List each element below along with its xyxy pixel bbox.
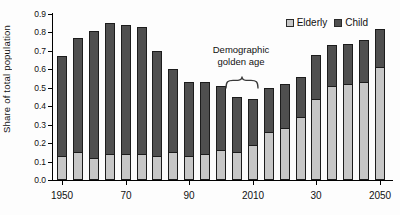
y-tick-label-0.2: 0.2 bbox=[26, 139, 46, 148]
legend-swatch-child bbox=[334, 19, 342, 27]
bar-1970-child bbox=[121, 25, 131, 155]
x-tick-30 bbox=[316, 181, 317, 185]
bar-1995-child bbox=[200, 82, 210, 155]
x-tick-2050 bbox=[380, 181, 381, 185]
x-tick-label-30: 30 bbox=[299, 190, 333, 201]
bar-1990-elderly bbox=[184, 156, 194, 180]
bar-2010-child bbox=[248, 99, 258, 146]
bar-1995-elderly bbox=[200, 154, 210, 180]
x-axis-line bbox=[52, 180, 393, 181]
bar-2020-child bbox=[280, 84, 290, 129]
y-tick-label-0.3: 0.3 bbox=[26, 121, 46, 130]
x-tick-label-2010: 2010 bbox=[236, 190, 270, 201]
bar-2035-child bbox=[327, 45, 337, 87]
bar-1970-elderly bbox=[121, 154, 131, 180]
y-tick-label-0.9: 0.9 bbox=[26, 10, 46, 19]
x-tick-70 bbox=[126, 181, 127, 185]
y-tick-label-0.1: 0.1 bbox=[26, 158, 46, 167]
bar-2030-elderly bbox=[311, 99, 321, 180]
x-tick-90 bbox=[189, 181, 190, 185]
population-share-chart: Share of total population 0.00.10.20.30.… bbox=[0, 0, 400, 215]
bar-1950-child bbox=[57, 56, 67, 157]
bar-2005-child bbox=[232, 97, 242, 153]
bar-2000-elderly bbox=[216, 150, 226, 180]
legend-label-elderly: Elderly bbox=[297, 17, 328, 28]
legend-item-elderly: Elderly bbox=[286, 17, 328, 28]
bar-1960-elderly bbox=[89, 158, 99, 180]
bar-2005-elderly bbox=[232, 152, 242, 180]
brace-icon bbox=[225, 76, 259, 90]
annotation-line2: golden age bbox=[183, 56, 299, 68]
annotation-demographic-golden-age: Demographic golden age bbox=[183, 44, 299, 67]
bar-1955-child bbox=[73, 38, 83, 153]
x-tick-label-90: 90 bbox=[172, 190, 206, 201]
x-tick-2010 bbox=[253, 181, 254, 185]
y-axis-title: Share of total population bbox=[1, 18, 14, 140]
bar-2050-elderly bbox=[375, 67, 385, 180]
y-tick-0.6 bbox=[48, 69, 52, 70]
y-tick-label-0.7: 0.7 bbox=[26, 47, 46, 56]
bar-1975-elderly bbox=[137, 154, 147, 180]
bar-2000-child bbox=[216, 86, 226, 151]
x-tick-label-1950: 1950 bbox=[45, 190, 79, 201]
bar-2045-child bbox=[359, 40, 369, 83]
y-tick-0.1 bbox=[48, 162, 52, 163]
y-tick-0.2 bbox=[48, 143, 52, 144]
bar-2025-child bbox=[296, 77, 306, 118]
bar-1950-elderly bbox=[57, 156, 67, 180]
y-tick-0.9 bbox=[48, 14, 52, 15]
bar-1985-elderly bbox=[168, 152, 178, 180]
bar-1955-elderly bbox=[73, 152, 83, 180]
y-tick-label-0.4: 0.4 bbox=[26, 102, 46, 111]
y-tick-label-0.0: 0.0 bbox=[26, 176, 46, 185]
legend: ElderlyChild bbox=[286, 17, 368, 28]
bar-2040-child bbox=[343, 44, 353, 85]
y-tick-0.0 bbox=[48, 180, 52, 181]
y-tick-0.7 bbox=[48, 51, 52, 52]
bar-2020-elderly bbox=[280, 128, 290, 180]
bar-1990-child bbox=[184, 82, 194, 157]
bar-1975-child bbox=[137, 27, 147, 155]
y-tick-0.4 bbox=[48, 106, 52, 107]
bar-2015-child bbox=[264, 88, 274, 133]
bar-1965-child bbox=[105, 23, 115, 155]
x-tick-label-2050: 2050 bbox=[363, 190, 397, 201]
x-tick-1950 bbox=[62, 181, 63, 185]
bar-2040-elderly bbox=[343, 84, 353, 180]
bar-1985-child bbox=[168, 69, 178, 153]
bar-2025-elderly bbox=[296, 117, 306, 180]
bar-1980-elderly bbox=[152, 156, 162, 180]
y-tick-label-0.8: 0.8 bbox=[26, 28, 46, 37]
x-tick-label-70: 70 bbox=[109, 190, 143, 201]
bar-1960-child bbox=[89, 31, 99, 159]
bar-2035-elderly bbox=[327, 86, 337, 180]
annotation-line1: Demographic bbox=[183, 44, 299, 56]
bar-2050-child bbox=[375, 29, 385, 68]
bar-2010-elderly bbox=[248, 145, 258, 180]
y-tick-label-0.6: 0.6 bbox=[26, 65, 46, 74]
bar-2045-elderly bbox=[359, 82, 369, 180]
legend-label-child: Child bbox=[345, 17, 368, 28]
bar-1980-child bbox=[152, 51, 162, 157]
bar-1965-elderly bbox=[105, 154, 115, 180]
bar-2015-elderly bbox=[264, 132, 274, 180]
y-tick-0.8 bbox=[48, 32, 52, 33]
y-axis-line bbox=[52, 13, 53, 181]
legend-item-child: Child bbox=[334, 17, 368, 28]
bar-2030-child bbox=[311, 55, 321, 100]
legend-swatch-elderly bbox=[286, 19, 294, 27]
y-tick-0.3 bbox=[48, 125, 52, 126]
y-tick-label-0.5: 0.5 bbox=[26, 84, 46, 93]
y-tick-0.5 bbox=[48, 88, 52, 89]
